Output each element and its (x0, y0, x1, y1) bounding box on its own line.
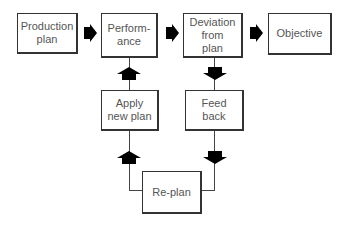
objective-box: Objective (268, 13, 332, 55)
production-plan-box: Production plan (17, 13, 78, 54)
arrow-right-icon (166, 24, 179, 42)
re-plan-box: Re-plan (142, 171, 202, 214)
arrow-right-icon (250, 24, 263, 42)
arrow-down-icon (203, 67, 227, 80)
arrow-right-icon (84, 24, 97, 42)
connector-apply-replan-horizontal (129, 190, 143, 191)
arrow-up-icon (117, 151, 141, 164)
feed-back-box: Feed back (185, 90, 244, 131)
arrow-up-icon (117, 67, 141, 80)
deviation-from-plan-box: Deviation from plan (183, 13, 243, 58)
arrow-down-icon (203, 151, 227, 164)
apply-new-plan-box: Apply new plan (101, 90, 159, 131)
connector-feedback-replan-horizontal (201, 190, 215, 191)
performance-box: Perform- ance (101, 13, 158, 58)
